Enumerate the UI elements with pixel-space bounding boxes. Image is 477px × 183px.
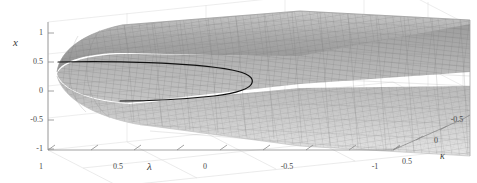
x-tick-label-0: 0 xyxy=(27,87,43,95)
lambda-tick-label-0.5: 0.5 xyxy=(107,163,129,171)
kappa-tick-label-0: 0 xyxy=(428,137,444,145)
kappa-tick-label-0.5: 0.5 xyxy=(396,158,418,166)
x-tick-label-neg0.5: -0.5 xyxy=(18,116,43,124)
lambda-tick-label-0: 0 xyxy=(197,163,213,171)
cusp-surface xyxy=(57,11,470,156)
lambda-tick-label-1: 1 xyxy=(33,163,49,171)
kappa-tick-label-neg0.5: -0.5 xyxy=(444,116,470,124)
x-axis-ticks xyxy=(48,33,54,149)
x-axis-title: x xyxy=(13,37,18,48)
x-tick-label-1: 1 xyxy=(27,29,43,37)
lambda-tick-label-neg0.5: -0.5 xyxy=(274,163,300,171)
x-tick-label-0.5: 0.5 xyxy=(22,58,43,66)
kappa-axis-title: κ xyxy=(440,151,445,161)
x-tick-label-neg1: -1 xyxy=(23,145,43,153)
plot-canvas xyxy=(0,0,477,183)
surface-plot-figure: 1 0.5 0 -0.5 -1 x 1 0.5 0 -0.5 -1 λ 0.5 … xyxy=(0,0,477,183)
lambda-axis-title: λ xyxy=(147,161,152,172)
lambda-tick-label-neg1: -1 xyxy=(365,163,385,171)
